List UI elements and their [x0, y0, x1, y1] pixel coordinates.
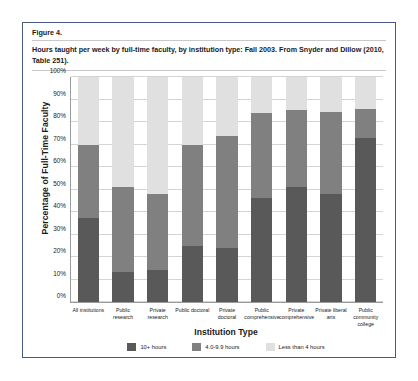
legend-swatch: [192, 343, 201, 351]
bar-segment[interactable]: [216, 77, 237, 136]
x-axis-tick-label: Public comprehensive: [244, 307, 279, 321]
bar-segment[interactable]: [355, 138, 376, 302]
stacked-bar[interactable]: [78, 77, 99, 302]
figure-frame: Figure 4. Hours taught per week by full-…: [22, 22, 396, 358]
bar-segment[interactable]: [355, 77, 376, 109]
x-axis-tick-label: Public doctoral: [175, 307, 210, 314]
bar-segment[interactable]: [216, 136, 237, 248]
legend: 10+ hours4.0-9.9 hoursLess than 4 hours: [70, 343, 382, 351]
legend-item[interactable]: 10+ hours: [127, 343, 166, 351]
bar-segment[interactable]: [355, 109, 376, 138]
bar-segment[interactable]: [182, 145, 203, 247]
x-axis-title: Institution Type: [70, 327, 382, 337]
bar-segment[interactable]: [216, 248, 237, 302]
bar-slot: Private comprehensive: [279, 77, 314, 302]
stacked-bar[interactable]: [320, 77, 341, 302]
bar-segment[interactable]: [112, 272, 133, 302]
y-axis-tick-label: 0%: [57, 292, 71, 299]
bar-segment[interactable]: [182, 77, 203, 145]
stacked-bar[interactable]: [147, 77, 168, 302]
figure-label: Figure 4.: [32, 28, 386, 37]
y-axis-tick-label: 30%: [53, 224, 71, 231]
plot-area: 0%10%20%30%40%50%60%70%80%90%100% All in…: [70, 77, 383, 303]
x-axis-tick-label: Private research: [140, 307, 175, 321]
bar-slot: Public community college: [348, 77, 383, 302]
bar-slot: Private doctoral: [210, 77, 245, 302]
bar-segment[interactable]: [251, 113, 272, 198]
bar-slot: Public comprehensive: [244, 77, 279, 302]
bar-segment[interactable]: [320, 77, 341, 112]
stacked-bar[interactable]: [182, 77, 203, 302]
bar-segment[interactable]: [251, 198, 272, 302]
bar-slot: All institutions: [71, 77, 106, 302]
legend-label: 4.0-9.9 hours: [205, 344, 239, 350]
x-axis-tick-label: All institutions: [71, 307, 106, 314]
bar-segment[interactable]: [286, 77, 307, 110]
x-axis-tick-label: Public community college: [348, 307, 383, 328]
x-axis-tick-label: Private liberal arts: [314, 307, 349, 321]
bar-slot: Public research: [106, 77, 141, 302]
stacked-bar[interactable]: [355, 77, 376, 302]
header-divider-top: [32, 40, 386, 41]
bar-segment[interactable]: [320, 112, 341, 195]
bar-segment[interactable]: [78, 145, 99, 217]
bar-group: All institutionsPublic researchPrivate r…: [71, 77, 383, 302]
x-axis-tick-label: Private doctoral: [210, 307, 245, 321]
figure-caption: Hours taught per week by full-time facul…: [32, 45, 386, 66]
y-axis-tick-label: 20%: [53, 247, 71, 254]
bar-segment[interactable]: [112, 187, 133, 272]
bar-segment[interactable]: [251, 77, 272, 113]
bar-segment[interactable]: [112, 77, 133, 187]
bar-segment[interactable]: [182, 246, 203, 302]
stacked-bar[interactable]: [286, 77, 307, 302]
y-axis-tick-label: 10%: [53, 269, 71, 276]
bar-segment[interactable]: [78, 77, 99, 145]
bar-segment[interactable]: [147, 194, 168, 270]
y-axis-tick-label: 40%: [53, 202, 71, 209]
y-axis-tick-label: 100%: [50, 67, 71, 74]
figure-header: Figure 4. Hours taught per week by full-…: [23, 23, 395, 71]
bar-slot: Private liberal arts: [314, 77, 349, 302]
y-axis-tick-label: 90%: [53, 89, 71, 96]
stacked-bar[interactable]: [112, 77, 133, 302]
bar-segment[interactable]: [286, 110, 307, 187]
legend-swatch: [127, 343, 136, 351]
bar-segment[interactable]: [320, 194, 341, 302]
stacked-bar[interactable]: [251, 77, 272, 302]
bar-segment[interactable]: [147, 77, 168, 194]
y-axis-tick-label: 70%: [53, 134, 71, 141]
stacked-bar[interactable]: [216, 77, 237, 302]
bar-slot: Private research: [140, 77, 175, 302]
legend-label: 10+ hours: [140, 344, 166, 350]
bar-segment[interactable]: [147, 270, 168, 302]
y-axis-title: Percentage of Full-Time Faculty: [40, 98, 50, 238]
y-axis-tick-label: 80%: [53, 112, 71, 119]
x-axis-tick-label: Private comprehensive: [279, 307, 314, 321]
legend-swatch: [266, 343, 275, 351]
y-axis-tick-label: 50%: [53, 179, 71, 186]
x-axis-tick-label: Public research: [106, 307, 141, 321]
legend-item[interactable]: Less than 4 hours: [266, 343, 325, 351]
bar-segment[interactable]: [286, 187, 307, 302]
y-axis-tick-label: 60%: [53, 157, 71, 164]
legend-label: Less than 4 hours: [279, 344, 325, 350]
bar-segment[interactable]: [78, 218, 99, 302]
chart-area: Percentage of Full-Time Faculty 0%10%20%…: [23, 71, 395, 357]
legend-item[interactable]: 4.0-9.9 hours: [192, 343, 239, 351]
bar-slot: Public doctoral: [175, 77, 210, 302]
